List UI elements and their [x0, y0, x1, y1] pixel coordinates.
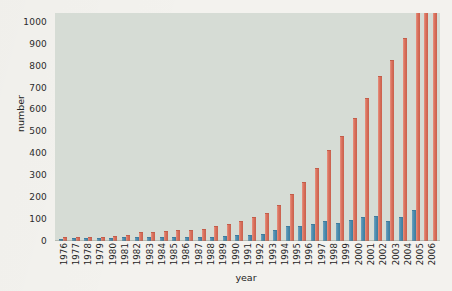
- bar-group[interactable]: [298, 13, 306, 241]
- x-axis-tick-label: 1980: [108, 243, 118, 265]
- bar-group[interactable]: [160, 13, 168, 241]
- x-axis-tick-label: 1979: [95, 243, 105, 265]
- bar-red-1988[interactable]: [214, 226, 218, 241]
- bar-group[interactable]: [248, 13, 256, 241]
- x-axis-tick-label: 1985: [169, 243, 179, 265]
- x-axis-tick-label: 1997: [317, 243, 327, 265]
- bar-red-1991[interactable]: [252, 217, 256, 241]
- bar-red-2000[interactable]: [365, 98, 369, 242]
- x-axis-tick-label: 1998: [329, 243, 339, 265]
- bar-group[interactable]: [135, 13, 143, 241]
- x-axis-tick-label: 1991: [243, 243, 253, 265]
- y-axis-tick-100: 100: [29, 214, 47, 224]
- bar-red-1995[interactable]: [302, 182, 306, 241]
- bar-red-1996[interactable]: [315, 168, 319, 241]
- bar-group[interactable]: [223, 13, 231, 241]
- x-axis-tick-label: 1984: [157, 243, 167, 265]
- bar-group[interactable]: [235, 13, 243, 241]
- bar-group[interactable]: [361, 13, 369, 241]
- bar-red-2002[interactable]: [390, 60, 394, 241]
- bar-group[interactable]: [210, 13, 218, 241]
- x-axis-tick-label: 1994: [280, 243, 290, 265]
- y-axis-tick-0: 0: [41, 236, 47, 246]
- y-axis-tick-400: 400: [29, 148, 47, 158]
- bar-group-container: [55, 13, 440, 241]
- x-axis-tick-label: 2003: [391, 243, 401, 265]
- bar-group[interactable]: [261, 13, 269, 241]
- bar-group[interactable]: [286, 13, 294, 241]
- x-axis-tick-label: 1996: [304, 243, 314, 265]
- x-axis-tick-label: 1976: [59, 243, 69, 265]
- bar-group[interactable]: [185, 13, 193, 241]
- figure-container: number 01002003004005006007008009001000 …: [0, 0, 452, 291]
- bar-group[interactable]: [198, 13, 206, 241]
- x-axis-tick-label: 2005: [415, 243, 425, 265]
- x-axis-tick-label: 2006: [427, 243, 437, 265]
- y-axis-tick-900: 900: [29, 39, 47, 49]
- bar-red-1992[interactable]: [265, 213, 269, 241]
- x-axis-tick-label: 1993: [268, 243, 278, 265]
- x-axis-tick-label: 2004: [403, 243, 413, 265]
- bar-red-2001[interactable]: [378, 76, 382, 241]
- x-axis-tick-label: 1978: [83, 243, 93, 265]
- bar-group[interactable]: [59, 13, 67, 241]
- x-axis-tick-label: 1983: [145, 243, 155, 265]
- bar-red-1998[interactable]: [340, 136, 344, 241]
- bar-red-2004[interactable]: [416, 13, 420, 241]
- x-axis-tick-label: 1995: [292, 243, 302, 265]
- bar-group[interactable]: [311, 13, 319, 241]
- plot-area: [55, 13, 440, 241]
- y-axis-tick-500: 500: [29, 126, 47, 136]
- x-axis-tick-label: 1999: [341, 243, 351, 265]
- x-axis-tick-label: 1987: [194, 243, 204, 265]
- bar-group[interactable]: [374, 13, 382, 241]
- x-axis-tick-label: 1988: [206, 243, 216, 265]
- y-axis-tick-1000: 1000: [23, 17, 47, 27]
- bar-group[interactable]: [84, 13, 92, 241]
- bar-group[interactable]: [109, 13, 117, 241]
- x-axis-tick-label: 1981: [120, 243, 130, 265]
- bar-group[interactable]: [433, 13, 437, 241]
- bar-group[interactable]: [399, 13, 407, 241]
- bar-red-1990[interactable]: [239, 221, 243, 241]
- x-axis-tick-label: 1977: [71, 243, 81, 265]
- bar-group[interactable]: [273, 13, 281, 241]
- y-axis-tick-group: 01002003004005006007008009001000: [0, 13, 52, 241]
- bar-group[interactable]: [147, 13, 155, 241]
- y-axis-tick-800: 800: [29, 61, 47, 71]
- bar-group[interactable]: [349, 13, 357, 241]
- bar-group[interactable]: [386, 13, 394, 241]
- y-axis-tick-600: 600: [29, 104, 47, 114]
- bar-red-1997[interactable]: [327, 150, 331, 241]
- x-axis-tick-label: 1989: [218, 243, 228, 265]
- bar-group[interactable]: [424, 13, 428, 241]
- bar-red-1989[interactable]: [227, 224, 231, 241]
- axis-baseline: [55, 240, 440, 241]
- bar-group[interactable]: [97, 13, 105, 241]
- y-axis-tick-200: 200: [29, 192, 47, 202]
- x-axis-tick-label: 2002: [378, 243, 388, 265]
- x-axis-tick-label: 2001: [366, 243, 376, 265]
- bar-red-2003[interactable]: [403, 38, 407, 241]
- bar-group[interactable]: [72, 13, 80, 241]
- y-axis-tick-700: 700: [29, 83, 47, 93]
- bar-red-2006[interactable]: [433, 13, 437, 241]
- bar-red-1999[interactable]: [353, 118, 357, 241]
- x-axis-tick-label: 1990: [231, 243, 241, 265]
- y-axis-tick-300: 300: [29, 170, 47, 180]
- bar-group[interactable]: [172, 13, 180, 241]
- x-axis-label: year: [0, 272, 452, 283]
- bar-group[interactable]: [412, 13, 420, 241]
- x-axis-tick-label: 1982: [132, 243, 142, 265]
- bar-group[interactable]: [323, 13, 331, 241]
- x-axis-tick-label: 1986: [181, 243, 191, 265]
- x-axis-tick-label: 2000: [354, 243, 364, 265]
- bar-red-1993[interactable]: [277, 205, 281, 241]
- bar-red-1994[interactable]: [290, 194, 294, 241]
- bar-group[interactable]: [336, 13, 344, 241]
- bar-group[interactable]: [122, 13, 130, 241]
- x-axis-tick-label: 1992: [255, 243, 265, 265]
- bar-red-2005[interactable]: [424, 13, 428, 241]
